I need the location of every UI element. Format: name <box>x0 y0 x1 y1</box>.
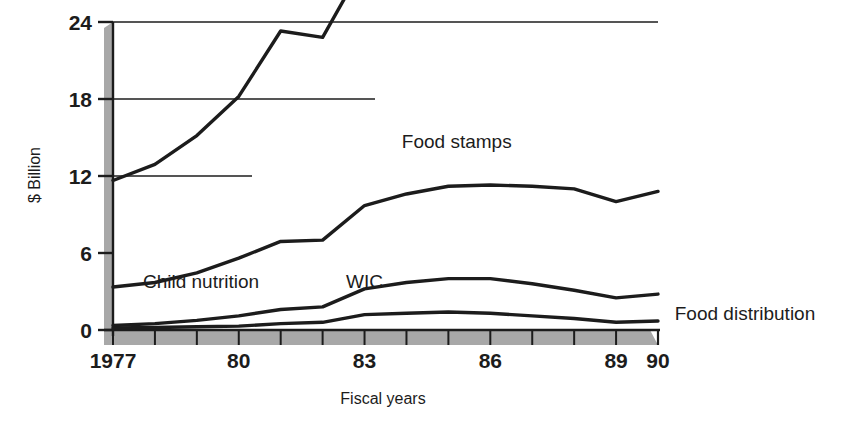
annotation-wic: WIC <box>346 271 383 292</box>
annotation-food-stamps: Food stamps <box>402 131 512 152</box>
y-axis-title: $ Billion <box>26 147 43 203</box>
x-tick-label-1977: 1977 <box>90 349 137 372</box>
x-tick-label-83: 83 <box>353 349 376 372</box>
y-tick-label-18: 18 <box>69 88 93 111</box>
chart-container: 24181260 19778083868990 Food stampsChild… <box>0 0 853 439</box>
x-tick-label-90: 90 <box>646 349 669 372</box>
x-tick-label-89: 89 <box>604 349 627 372</box>
y-tick-label-6: 6 <box>80 242 92 265</box>
chart-background <box>0 0 853 439</box>
y-tick-label-12: 12 <box>69 165 92 188</box>
x-tick-label-86: 86 <box>479 349 502 372</box>
x-axis-title: Fiscal years <box>340 390 425 407</box>
annotation-child-nutrition: Child nutrition <box>143 271 259 292</box>
annotation-food-distribution: Food distribution <box>675 303 815 324</box>
y-tick-label-0: 0 <box>80 319 92 342</box>
y-tick-label-24: 24 <box>69 11 93 34</box>
food-assistance-line-chart: 24181260 19778083868990 Food stampsChild… <box>0 0 853 439</box>
x-tick-label-80: 80 <box>227 349 250 372</box>
